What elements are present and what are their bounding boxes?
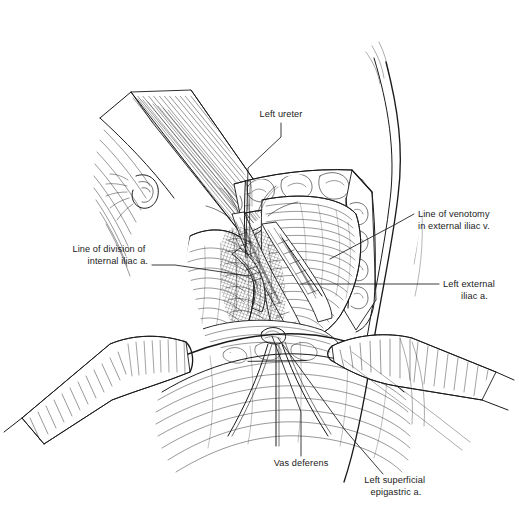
illustration-canvas: Left ureter Line of venotomy in external… <box>0 0 519 522</box>
label-left-ureter: Left ureter <box>260 109 303 119</box>
surgical-illustration-figure: Left ureter Line of venotomy in external… <box>0 0 519 522</box>
label-vas-deferens: Vas deferens <box>274 458 329 468</box>
